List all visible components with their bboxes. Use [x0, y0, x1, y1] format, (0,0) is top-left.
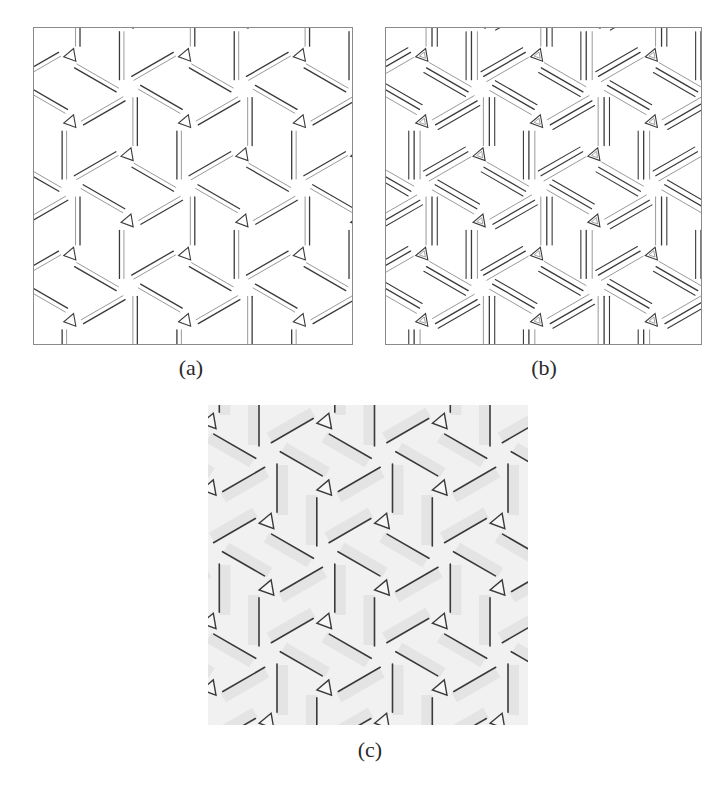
caption-a: (a) — [161, 355, 221, 381]
panel-c-folded-model — [208, 405, 528, 725]
tessellation-b-graphic — [386, 28, 701, 344]
tessellation-a-graphic — [34, 28, 352, 344]
panel-b-crease-pattern — [385, 27, 702, 345]
caption-b: (b) — [514, 355, 574, 381]
panel-a-crease-pattern — [33, 27, 353, 345]
tessellation-c-graphic — [208, 405, 528, 725]
caption-c: (c) — [340, 737, 400, 763]
